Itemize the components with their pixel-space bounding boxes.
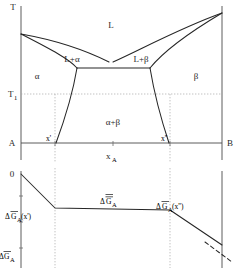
gibbs-label-plateau-delta: Δ <box>100 197 105 206</box>
region-label-liquid: L <box>108 20 114 30</box>
region-label-alpha-plus-beta: α+β <box>106 117 121 127</box>
gibbs-label-plateau-subscript: A <box>112 201 117 208</box>
region-label-beta: β <box>194 71 199 81</box>
gibbs-y-axis-title-subscript: A <box>10 256 15 263</box>
gibbs-zero-label: 0 <box>10 169 15 179</box>
gibbs-label-x-double-prime: Δ G A (x'') <box>156 202 184 213</box>
axis-label-x-subscript: A <box>112 156 117 163</box>
gibbs-label-x-prime-delta: Δ <box>5 212 10 221</box>
composition-marker-x-double-prime: x'' <box>161 134 168 143</box>
gibbs-label-x-double-prime-delta: Δ <box>156 202 161 211</box>
gibbs-energy-curve <box>21 174 222 245</box>
region-label-liquid-plus-beta: L+β <box>133 54 149 64</box>
phase-diagram-figure: L L+α L+β α β α+β T A B T 1 x A x' x'' <box>0 0 237 271</box>
gibbs-label-x-prime: Δ G A (x') <box>5 212 32 223</box>
phase-diagram-panel: L L+α L+β α β α+β T A B T 1 x A x' x'' <box>8 2 233 163</box>
composition-marker-x-prime: x' <box>46 134 52 143</box>
isotherm-label-subscript: 1 <box>14 94 17 101</box>
region-label-alpha: α <box>35 71 40 81</box>
axis-label-x: x <box>106 151 111 161</box>
gibbs-energy-dashed-tail <box>205 242 232 262</box>
gibbs-label-x-prime-arg: (x') <box>21 212 32 221</box>
gibbs-y-axis-title: Δ G A <box>0 252 15 263</box>
axis-label-composition: x A <box>106 151 117 163</box>
isotherm-label-T1: T 1 <box>8 89 17 101</box>
axis-label-temperature: T <box>10 2 16 12</box>
beta-solvus-curve <box>150 68 169 143</box>
figure-canvas: L L+α L+β α β α+β T A B T 1 x A x' x'' <box>0 0 237 271</box>
axis-label-component-B: B <box>227 138 233 148</box>
liquidus-right-curve <box>113 13 222 62</box>
gibbs-label-plateau: Δ G A <box>100 195 117 208</box>
region-label-liquid-plus-alpha: L+α <box>64 54 80 64</box>
axis-label-component-A: A <box>9 138 16 148</box>
beta-solidus-curve <box>150 13 222 68</box>
alpha-solvus-curve <box>56 68 77 143</box>
gibbs-label-x-double-prime-arg: (x'') <box>172 202 184 211</box>
gibbs-energy-panel: 0 Δ G A (x') Δ G A Δ G A <box>0 168 232 268</box>
